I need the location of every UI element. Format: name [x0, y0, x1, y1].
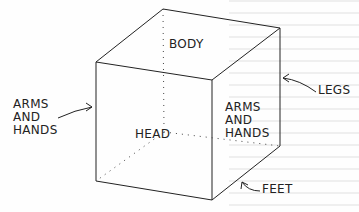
- arrow-arms-left-icon: [58, 107, 92, 118]
- label-legs: LEGS: [318, 84, 350, 97]
- label-feet: FEET: [262, 183, 293, 196]
- label-arms-right: ARMS AND HANDS: [225, 101, 270, 140]
- cube-diagram: BODY HEAD ARMS AND HANDS ARMS AND HANDS …: [0, 0, 359, 212]
- label-arms-left: ARMS AND HANDS: [13, 98, 58, 137]
- arrow-legs-icon: [283, 78, 316, 92]
- label-head: HEAD: [135, 128, 170, 141]
- hidden-edge-vertical: [163, 9, 164, 132]
- label-body: BODY: [169, 38, 204, 51]
